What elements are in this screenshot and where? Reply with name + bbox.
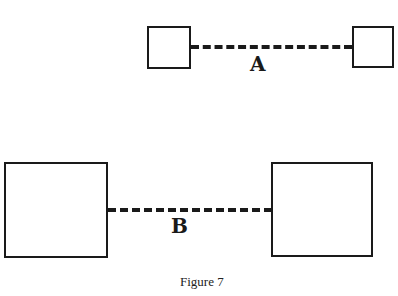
box-a-right — [352, 26, 394, 68]
dashed-line-b — [108, 208, 272, 212]
dashed-line-a — [191, 45, 352, 49]
box-b-left — [4, 162, 108, 258]
label-b: B — [171, 214, 188, 238]
box-b-right — [271, 162, 373, 257]
box-a-left — [147, 26, 191, 69]
label-a: A — [250, 52, 266, 76]
figure-caption: Figure 7 — [180, 274, 224, 290]
